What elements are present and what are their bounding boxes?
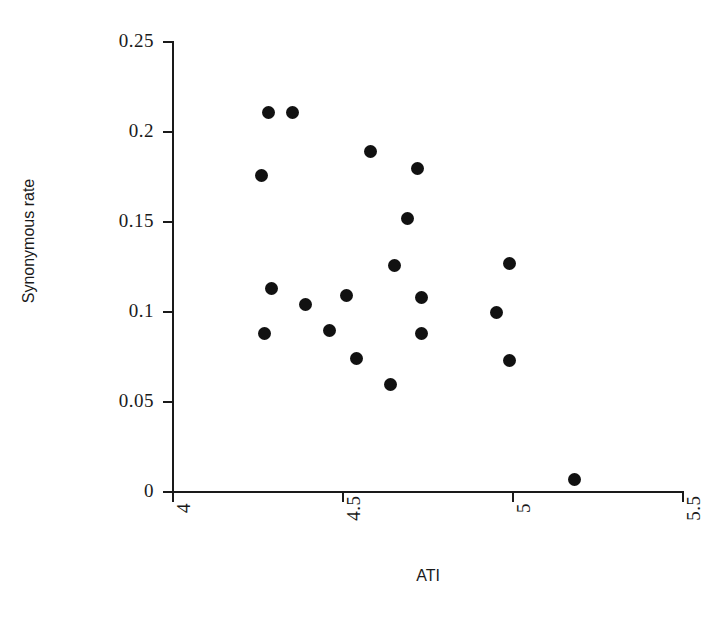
x-tick-label-text: 5 <box>513 503 535 513</box>
y-tick-label-text: 0.2 <box>92 120 154 142</box>
y-axis-title: Synonymous rate <box>20 151 38 331</box>
x-tick-label-text: 5.5 <box>683 495 705 520</box>
plot-area <box>173 42 683 492</box>
data-point <box>323 324 336 337</box>
y-tick-mark <box>163 131 173 133</box>
y-tick-label: 0.25 <box>92 30 154 54</box>
y-tick-label: 0.15 <box>92 210 154 234</box>
data-point <box>401 212 414 225</box>
y-tick-label: 0 <box>92 480 154 504</box>
scatter-plot-figure: 0.250.20.150.10.050 44.555.5 Synonymous … <box>0 0 727 618</box>
y-tick-label-text: 0.1 <box>92 300 154 322</box>
data-point <box>262 106 275 119</box>
y-tick-label-text: 0 <box>92 480 154 502</box>
y-tick-mark <box>163 311 173 313</box>
data-point <box>411 162 424 175</box>
x-tick-label-text: 4 <box>173 503 195 513</box>
data-point <box>415 291 428 304</box>
y-tick-mark <box>163 41 173 43</box>
x-tick-mark <box>172 491 174 502</box>
y-tick-label: 0.05 <box>92 390 154 414</box>
x-tick-label-text: 4.5 <box>343 495 365 520</box>
y-tick-label-text: 0.25 <box>92 30 154 52</box>
y-tick-label: 0.1 <box>92 300 154 324</box>
y-tick-label-text: 0.15 <box>92 210 154 232</box>
x-tick-label: 4 <box>161 508 185 568</box>
data-point <box>384 378 397 391</box>
y-tick-label: 0.2 <box>92 120 154 144</box>
data-point <box>286 106 299 119</box>
data-point <box>490 306 503 319</box>
x-tick-mark <box>512 491 514 502</box>
data-point <box>388 259 401 272</box>
data-point <box>415 327 428 340</box>
data-point <box>364 145 377 158</box>
y-tick-label-text: 0.05 <box>92 390 154 412</box>
data-point <box>255 169 268 182</box>
data-point <box>503 257 516 270</box>
x-tick-label: 5.5 <box>671 508 695 568</box>
x-axis-title: ATI <box>173 567 683 585</box>
y-tick-mark <box>163 221 173 223</box>
y-tick-mark <box>163 401 173 403</box>
x-tick-label: 4.5 <box>331 508 355 568</box>
x-tick-label: 5 <box>501 508 525 568</box>
data-point <box>568 473 581 486</box>
